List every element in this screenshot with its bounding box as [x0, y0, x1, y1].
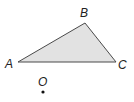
label-b: B [80, 6, 88, 20]
label-o: O [38, 75, 47, 89]
label-a: A [4, 57, 13, 71]
point-o-dot [41, 90, 44, 93]
geometry-diagram: A B C O [0, 0, 134, 102]
label-c: C [118, 58, 127, 72]
triangle-abc [18, 23, 116, 62]
